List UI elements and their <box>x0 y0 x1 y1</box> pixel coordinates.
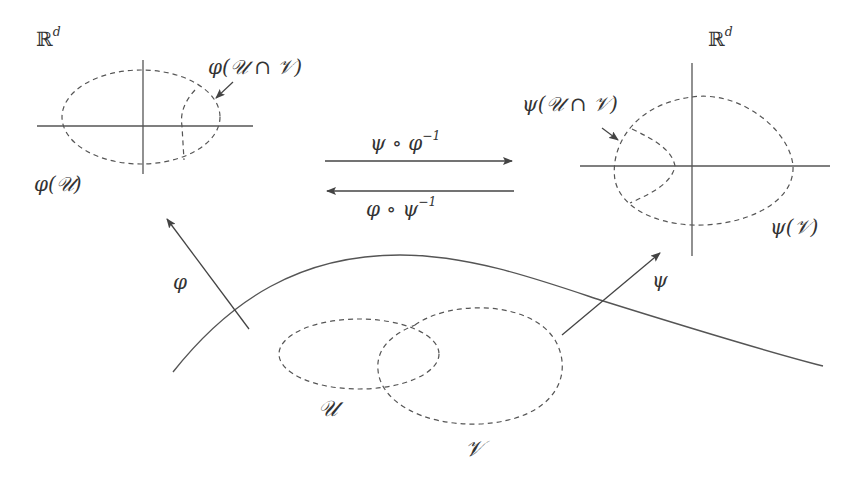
left-intersection-label: φ(𝒰 ∩ 𝒱) <box>208 57 302 77</box>
psi-map-label: ψ <box>652 270 668 290</box>
right-space-label: ℝd <box>708 28 733 49</box>
left-domain-label: φ(𝒰) <box>34 174 82 194</box>
left-domain-ellipse <box>62 70 220 164</box>
set-u-label: 𝒰 <box>318 398 338 420</box>
set-u-ellipse <box>279 319 439 389</box>
right-domain-label: ψ(𝒱) <box>770 217 818 237</box>
psi-map-arrow <box>562 253 660 335</box>
left-space-label: ℝd <box>36 28 61 49</box>
set-v-label: 𝒱 <box>465 438 483 460</box>
diagram-canvas <box>0 0 861 496</box>
phi-map-label: φ <box>173 272 187 292</box>
manifold-curve <box>173 255 823 372</box>
left-intersection-pointer <box>216 82 233 98</box>
right-intersection-label: ψ(𝒰 ∩ 𝒱) <box>522 94 618 114</box>
backward-transition-label: φ ∘ ψ−1 <box>366 198 436 219</box>
manifold-transition-map-diagram: ℝd φ(𝒰 ∩ 𝒱) φ(𝒰) ℝd ψ(𝒰 ∩ 𝒱) ψ(𝒱) ψ ∘ φ−… <box>0 0 861 496</box>
right-intersection-pointer <box>602 128 618 140</box>
left-intersection-boundary <box>182 90 195 160</box>
forward-transition-label: ψ ∘ φ−1 <box>370 132 440 153</box>
right-domain-curve <box>614 96 793 225</box>
